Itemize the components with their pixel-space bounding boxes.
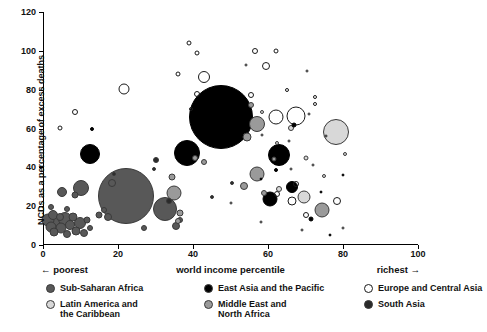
bubble-point: [297, 191, 310, 204]
bubble-point: [189, 107, 193, 111]
bubble-point: [328, 234, 331, 237]
bubble-point: [175, 218, 181, 224]
bubble-point: [240, 182, 248, 190]
bubble-point: [48, 204, 54, 210]
legend-item[interactable]: Middle East and North Africa: [204, 299, 364, 320]
chart-legend: Sub-Saharan AfricaEast Asia and the Paci…: [46, 283, 431, 320]
bubble-point: [192, 155, 198, 161]
bubble-point: [57, 125, 62, 130]
y-tick-mark: [39, 51, 43, 52]
bubble-point: [152, 167, 156, 171]
bubble-point: [108, 179, 116, 187]
bubble-point: [80, 144, 100, 164]
bubble-point: [194, 50, 199, 55]
legend-item[interactable]: Europe and Central Asia: [364, 283, 487, 294]
legend-item-label: Europe and Central Asia: [378, 283, 482, 294]
bubble-point: [201, 159, 207, 165]
bubble-point: [187, 41, 192, 46]
legend-item[interactable]: Sub-Saharan Africa: [46, 283, 204, 294]
bubble-point: [112, 172, 116, 176]
bubble-point: [71, 191, 78, 198]
y-tick-label: 80: [26, 85, 36, 94]
bubble-point: [292, 122, 297, 127]
bubble-point: [176, 72, 181, 77]
bubble-point: [313, 102, 317, 106]
y-tick-label: 40: [26, 163, 36, 172]
poorest-annotation: ← poorest: [41, 264, 88, 275]
y-tick-label: 100: [21, 46, 36, 55]
y-tick-label: 60: [26, 124, 36, 133]
bubble-point: [83, 216, 90, 223]
bubble-point: [303, 212, 309, 218]
bubble-point: [118, 83, 129, 94]
legend-item-label: Sub-Saharan Africa: [60, 283, 143, 294]
bubble-point: [303, 155, 308, 160]
bubble-point: [153, 157, 159, 163]
bubble-point: [312, 164, 315, 167]
bubble-point: [174, 140, 200, 166]
legend-swatch-icon: [364, 300, 373, 309]
bubble-point: [72, 109, 78, 115]
y-tick-label: 20: [26, 202, 36, 211]
bubble-point: [259, 177, 262, 180]
bubble-point: [342, 227, 345, 230]
bubble-point: [249, 167, 264, 182]
bubble-point: [276, 186, 282, 192]
x-tick-label: 40: [188, 250, 198, 259]
legend-item-label: Middle East and North Africa: [218, 299, 287, 320]
legend-item[interactable]: East Asia and the Pacific: [204, 283, 364, 294]
legend-swatch-icon: [204, 284, 213, 293]
y-tick-mark: [39, 12, 43, 13]
bubble-point: [313, 95, 317, 99]
x-axis-title: world income percentile: [43, 264, 418, 275]
legend-swatch-icon: [204, 300, 213, 309]
bubble-point: [230, 181, 234, 185]
bubble-point: [64, 206, 70, 212]
bubble-point: [333, 197, 341, 205]
bubble-point: [300, 229, 303, 232]
legend-swatch-icon: [364, 284, 373, 293]
legend-item[interactable]: South Asia: [364, 299, 487, 320]
y-tick-label: 120: [21, 8, 36, 17]
bubble-point: [262, 62, 270, 70]
y-tick-label: 0: [31, 241, 36, 250]
bubble-point: [289, 168, 292, 171]
bubble-point: [293, 181, 299, 187]
bubble-point: [271, 156, 276, 161]
richest-annotation: richest →: [377, 264, 420, 275]
bubble-point: [319, 190, 322, 193]
bubble-point: [274, 168, 278, 172]
x-axis-line: [43, 244, 418, 245]
bubble-point: [176, 209, 183, 216]
bubble-point: [322, 174, 326, 178]
bubble-point: [166, 198, 172, 204]
bubble-point: [57, 187, 67, 197]
bubble-point: [285, 88, 289, 92]
bubble-point: [342, 174, 345, 177]
bubble-point: [248, 102, 254, 108]
bubble-point: [248, 92, 254, 98]
legend-item-label: South Asia: [378, 299, 425, 310]
bubble-point: [275, 141, 279, 145]
bubble-point: [309, 216, 314, 221]
bubble-point: [169, 174, 176, 181]
bubble-point: [259, 220, 262, 223]
bubble-point: [69, 212, 78, 221]
legend-item[interactable]: Latin America and the Caribbean: [46, 299, 204, 320]
bubble-point: [229, 202, 232, 205]
bubble-point: [141, 225, 147, 231]
bubble-point: [243, 133, 252, 142]
bubble-point: [90, 127, 94, 131]
x-tick-label: 60: [263, 250, 273, 259]
bubble-point: [210, 195, 214, 199]
bubble-point: [198, 71, 210, 83]
bubble-point: [325, 135, 328, 138]
bubble-point: [104, 213, 112, 221]
bubble-point: [63, 230, 71, 238]
bubble-point: [306, 70, 309, 73]
x-tick-label: 20: [113, 250, 123, 259]
x-tick-label: 100: [410, 250, 425, 259]
bubble-point: [56, 213, 64, 221]
bubble-point: [50, 228, 59, 237]
